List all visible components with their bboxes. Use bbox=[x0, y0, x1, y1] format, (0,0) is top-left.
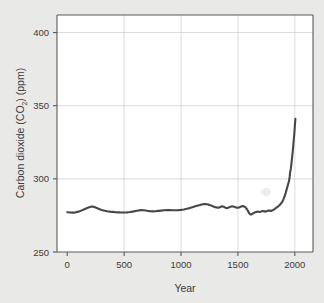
y-axis-title-prefix: Carbon dioxide (CO bbox=[14, 105, 26, 198]
y-axis-title: Carbon dioxide (CO2) (ppm) bbox=[14, 68, 28, 198]
x-tick-label: 0 bbox=[65, 259, 70, 270]
co2-line-chart: 0500100015002000 250300350400 Year Carbo… bbox=[0, 0, 324, 303]
y-tick-label: 250 bbox=[33, 247, 49, 258]
figure-container: 0500100015002000 250300350400 Year Carbo… bbox=[0, 0, 324, 303]
scan-artifact bbox=[261, 188, 271, 196]
y-tick-label: 300 bbox=[33, 173, 49, 184]
x-tick-label: 2000 bbox=[284, 259, 305, 270]
y-axis-title-suffix: ) (ppm) bbox=[14, 68, 26, 102]
x-axis-title: Year bbox=[174, 282, 196, 294]
y-tick-label: 400 bbox=[33, 27, 49, 38]
x-tick-label: 1000 bbox=[170, 259, 191, 270]
plot-area-background bbox=[57, 15, 313, 252]
y-tick-label: 350 bbox=[33, 100, 49, 111]
x-tick-label: 1500 bbox=[227, 259, 248, 270]
x-tick-label: 500 bbox=[116, 259, 132, 270]
